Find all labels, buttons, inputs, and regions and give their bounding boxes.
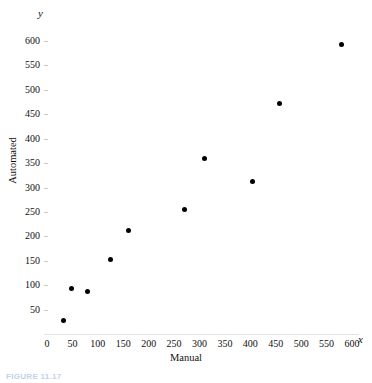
- x-tick-label: 100: [85, 339, 111, 349]
- x-tick-label: 250: [161, 339, 187, 349]
- data-point: [182, 207, 187, 212]
- x-tick-label: 0: [34, 339, 60, 349]
- x-tick-label: 300: [187, 339, 213, 349]
- y-tick-label: 400: [14, 134, 40, 144]
- x-tick-label: 350: [212, 339, 238, 349]
- data-point: [61, 318, 66, 323]
- x-tick-label: 50: [59, 339, 85, 349]
- data-point: [126, 228, 131, 233]
- data-point: [69, 286, 74, 291]
- x-tick-label: 550: [314, 339, 340, 349]
- data-point: [108, 257, 113, 262]
- y-tick-label: 150: [14, 256, 40, 266]
- y-tick-label: 300: [14, 183, 40, 193]
- y-tick-label: 100: [14, 280, 40, 290]
- y-tick-label: 350: [14, 158, 40, 168]
- y-tick-label: 50: [14, 305, 40, 315]
- y-tick-label: 500: [14, 85, 40, 95]
- x-tick-label: 200: [136, 339, 162, 349]
- data-point: [202, 156, 207, 161]
- data-point: [250, 179, 255, 184]
- y-tick-label: 250: [14, 207, 40, 217]
- data-point: [85, 289, 90, 294]
- y-tick-label: 200: [14, 231, 40, 241]
- scatter-plot-figure: y x Automated Manual 5010015020025030035…: [0, 0, 372, 383]
- x-tick-label: 500: [288, 339, 314, 349]
- data-point: [339, 42, 344, 47]
- plot-area: [47, 30, 353, 334]
- x-tick-label: 400: [237, 339, 263, 349]
- x-tick-label: 150: [110, 339, 136, 349]
- figure-caption: FIGURE 11.17: [6, 372, 62, 381]
- data-point: [277, 101, 282, 106]
- x-tick-label: 600: [339, 339, 365, 349]
- y-tick-label: 600: [14, 36, 40, 46]
- y-tick-label: 550: [14, 60, 40, 70]
- x-axis-title: Manual: [0, 352, 372, 363]
- x-tick-label: 450: [263, 339, 289, 349]
- y-variable-symbol: y: [38, 8, 43, 19]
- y-tick-label: 450: [14, 109, 40, 119]
